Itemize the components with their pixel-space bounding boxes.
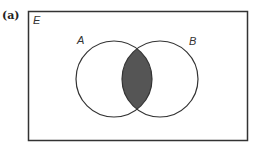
part-label: (a) bbox=[2, 9, 20, 22]
universal-set-label: E bbox=[33, 14, 41, 26]
set-a-label: A bbox=[76, 34, 84, 46]
venn-diagram: (a) E A B bbox=[0, 0, 254, 144]
set-b-label: B bbox=[189, 35, 196, 47]
